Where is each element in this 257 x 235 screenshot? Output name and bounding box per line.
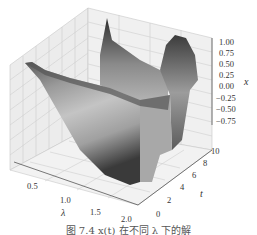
z-tick: 1.00 [219, 37, 234, 47]
y-axis-label: t [200, 188, 203, 199]
x-tick: 1.5 [90, 207, 101, 217]
z-tick: −0.75 [216, 116, 236, 126]
y-tick: 6 [192, 170, 196, 180]
figure-caption: 图 7.4 x(t) 在不同 λ 下的解 [0, 222, 257, 235]
z-tick: 0.25 [219, 70, 234, 80]
z-axis-label: x [243, 76, 249, 87]
z-tick: 0.75 [219, 48, 234, 58]
y-tick: 2 [167, 195, 171, 205]
z-tick: 0.00 [219, 81, 234, 91]
x-tick: 0.5 [27, 181, 38, 191]
y-tick: 4 [180, 182, 185, 192]
x-tick: 1.0 [60, 195, 71, 205]
y-tick: 10 [211, 146, 220, 156]
surface-plot: 1.00 0.75 0.50 0.25 0.00 −0.25 −0.50 −0.… [0, 0, 257, 235]
z-tick: 0.50 [219, 59, 234, 69]
z-tick: −0.25 [216, 93, 236, 103]
x-axis-label: λ [60, 207, 66, 218]
z-tick: −0.50 [216, 104, 236, 114]
y-tick: 8 [203, 158, 207, 168]
y-tick: 0 [156, 209, 160, 219]
z-axis-ticks: 1.00 0.75 0.50 0.25 0.00 −0.25 −0.50 −0.… [216, 37, 249, 126]
